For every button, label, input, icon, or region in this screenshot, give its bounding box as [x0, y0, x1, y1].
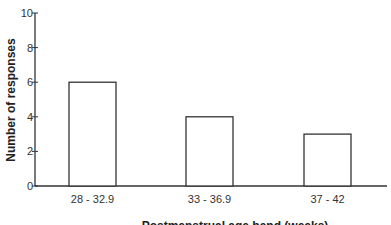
- y-axis-title: Number of responses: [4, 38, 18, 162]
- x-category-label: 28 - 32.9: [71, 193, 114, 205]
- x-category-label: 33 - 36.9: [188, 193, 231, 205]
- y-axis: 0246810: [21, 7, 38, 192]
- y-tick-label: 10: [21, 7, 33, 19]
- x-axis-title: Postmenstrual age band (weeks): [142, 219, 329, 225]
- y-tick-label: 2: [27, 145, 33, 157]
- y-tick-label: 0: [27, 180, 33, 192]
- bars: [69, 82, 351, 186]
- y-tick-label: 6: [27, 76, 33, 88]
- bar: [186, 117, 233, 186]
- x-category-label: 37 - 42: [310, 193, 344, 205]
- y-tick-label: 4: [27, 111, 33, 123]
- bar-chart: 0246810 28 - 32.933 - 36.937 - 42 Number…: [0, 0, 391, 225]
- bar: [304, 134, 351, 186]
- y-tick-label: 8: [27, 42, 33, 54]
- x-axis: 28 - 32.933 - 36.937 - 42: [35, 186, 387, 205]
- bar: [69, 82, 116, 186]
